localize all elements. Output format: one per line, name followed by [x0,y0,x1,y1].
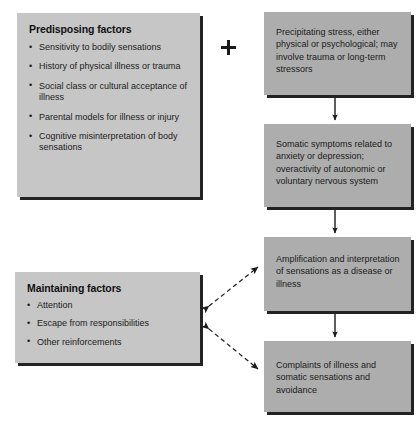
precipitating-stress-text: Precipitating stress, either physical or… [276,26,401,76]
list-item: Sensitivity to bodily sensations [29,42,190,53]
somatic-symptoms-text: Somatic symptoms related to anxiety or d… [276,138,401,188]
predisposing-factors-list: Sensitivity to bodily sensations History… [29,42,190,154]
somatic-symptom-model-diagram: Predisposing factors Sensitivity to bodi… [0,0,418,422]
list-item: Escape from responsibilities [27,318,190,329]
amplification-box: Amplification and interpretation of sens… [264,237,411,311]
arrow-maintaining-to-amplification [209,267,258,306]
predisposing-factors-title: Predisposing factors [29,23,190,35]
list-item: Cognitive misinterpretation of body sens… [29,131,190,154]
precipitating-stress-box: Precipitating stress, either physical or… [264,12,411,95]
complaints-box: Complaints of illness and somatic sensat… [264,341,411,412]
list-item: Parental models for illness or injury [29,112,190,123]
predisposing-factors-box: Predisposing factors Sensitivity to bodi… [17,13,200,197]
amplification-text: Amplification and interpretation of sens… [276,253,401,290]
list-item: History of physical illness or trauma [29,61,190,72]
maintaining-factors-list: Attention Escape from responsibilities O… [27,300,190,348]
maintaining-factors-box: Maintaining factors Attention Escape fro… [15,272,200,363]
complaints-text: Complaints of illness and somatic sensat… [276,359,401,396]
maintaining-factors-title: Maintaining factors [27,282,190,294]
list-item: Social class or cultural acceptance of i… [29,81,190,104]
list-item: Other reinforcements [27,337,190,348]
plus-icon [221,40,236,55]
arrow-maintaining-to-complaints [209,329,258,369]
list-item: Attention [27,300,190,311]
somatic-symptoms-box: Somatic symptoms related to anxiety or d… [264,124,411,207]
